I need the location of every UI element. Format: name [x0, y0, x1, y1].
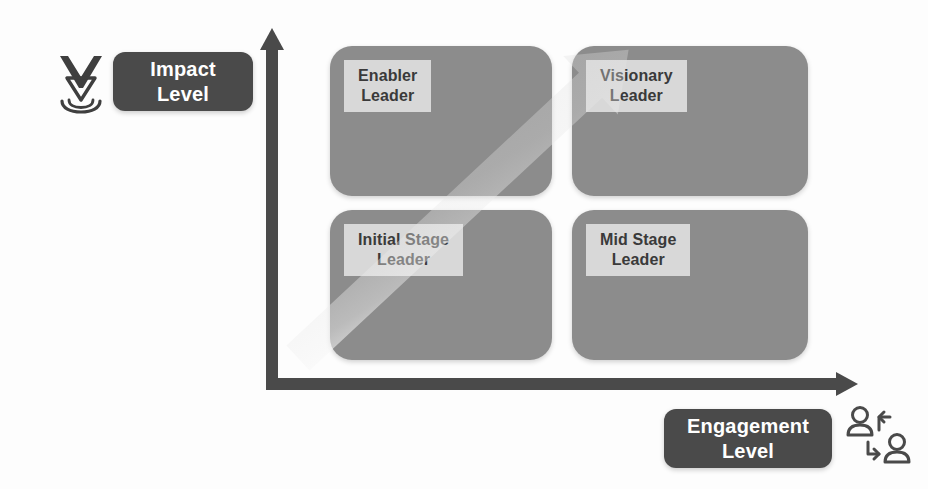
- quadrant-mid-stage-leader[interactable]: Mid Stage Leader: [572, 210, 808, 360]
- x-axis-arrowhead-icon: [836, 372, 858, 396]
- impact-arrow-icon: [50, 50, 112, 116]
- impact-level-text: Impact Level: [150, 57, 216, 107]
- y-axis-line: [266, 48, 278, 390]
- engagement-level-text: Engagement Level: [687, 414, 809, 464]
- y-axis-arrowhead-icon: [260, 28, 284, 50]
- quadrant-label-initial-stage-leader: Initial Stage Leader: [344, 224, 463, 276]
- people-exchange-icon: [846, 404, 914, 472]
- diagram-canvas: Enabler Leader Visionary Leader Initial …: [0, 0, 928, 489]
- impact-level-label: Impact Level: [113, 52, 253, 111]
- quadrant-label-visionary-leader: Visionary Leader: [586, 60, 687, 112]
- engagement-level-label: Engagement Level: [664, 409, 832, 468]
- x-axis-line: [266, 378, 840, 390]
- quadrant-initial-stage-leader[interactable]: Initial Stage Leader: [330, 210, 552, 360]
- quadrant-enabler-leader[interactable]: Enabler Leader: [330, 46, 552, 196]
- quadrant-label-mid-stage-leader: Mid Stage Leader: [586, 224, 690, 276]
- quadrant-visionary-leader[interactable]: Visionary Leader: [572, 46, 808, 196]
- quadrant-label-enabler-leader: Enabler Leader: [344, 60, 431, 112]
